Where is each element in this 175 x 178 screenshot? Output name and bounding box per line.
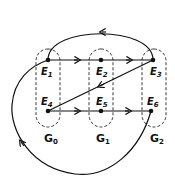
label-E1: E1 [41,66,53,79]
label-E5: E5 [96,96,108,109]
label-E2: E2 [96,66,108,79]
edge-E3-E1-arc [48,34,153,60]
node-E1 [46,58,51,63]
node-E3 [151,58,156,63]
label-G2: G2 [150,132,164,146]
edge-E6-E1-loop [12,60,151,174]
label-G0: G0 [44,132,58,146]
node-E4 [46,109,51,114]
node-E2 [99,58,104,63]
node-E5 [99,109,104,114]
label-G1: G1 [96,132,110,146]
label-E4: E4 [41,96,53,109]
label-E6: E6 [147,96,159,109]
label-E3: E3 [150,66,162,79]
node-E6 [149,109,154,114]
state-diagram: E1 E2 E3 E4 E5 E6 G0 G1 G2 [0,0,175,178]
